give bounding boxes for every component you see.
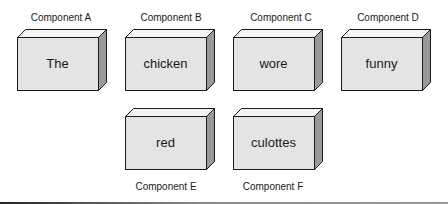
component-f-box: culottes xyxy=(233,108,323,169)
component-b-box: chicken xyxy=(125,29,215,90)
component-b-label: Component B xyxy=(116,12,226,23)
component-e-box: red xyxy=(125,108,215,169)
component-a-box: The xyxy=(17,29,107,90)
component-e-label: Component E xyxy=(111,181,221,192)
component-c-box: wore xyxy=(233,29,323,90)
component-d-word: funny xyxy=(341,37,422,90)
bottom-divider xyxy=(0,202,448,204)
component-a-word: The xyxy=(17,37,98,90)
component-b-word: chicken xyxy=(125,37,206,90)
component-a-label: Component A xyxy=(6,12,116,23)
component-c-label: Component C xyxy=(226,12,336,23)
component-f-word: culottes xyxy=(233,116,314,169)
component-f-label: Component F xyxy=(218,181,328,192)
component-c-word: wore xyxy=(233,37,314,90)
component-d-label: Component D xyxy=(333,12,443,23)
component-e-word: red xyxy=(125,116,206,169)
component-d-box: funny xyxy=(341,29,431,90)
